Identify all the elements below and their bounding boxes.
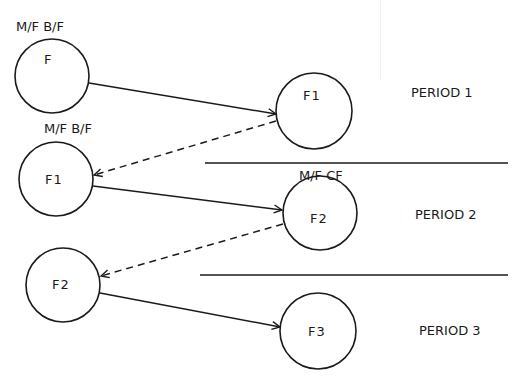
node-circle <box>276 73 352 149</box>
scan-bleed-through <box>380 0 381 80</box>
node-F1-period2: M/F B/F F1 <box>19 121 93 216</box>
node-label: F2 <box>52 277 70 292</box>
period-label-3: PERIOD 3 <box>419 323 481 338</box>
node-label: F1 <box>45 172 63 187</box>
edge-F2-to-F3 <box>100 293 280 327</box>
forecast-period-diagram: M/F B/F F F1 M/F B/F F1 M/F CF F2 F2 F3 … <box>0 0 524 389</box>
edge-F1-to-F2 <box>93 186 282 210</box>
node-label: F3 <box>308 324 326 339</box>
node-annotation: M/F B/F <box>16 19 64 34</box>
node-annotation: M/F B/F <box>44 121 92 136</box>
node-F: M/F B/F F <box>15 19 89 113</box>
edge-F1-to-F1-dashed <box>94 121 276 175</box>
node-F2-period2: M/F CF F2 <box>283 168 357 250</box>
node-label: F2 <box>310 211 328 226</box>
node-label: F1 <box>303 88 321 103</box>
node-F1-period1: F1 <box>276 73 352 149</box>
node-label: F <box>44 52 52 67</box>
edge-F-to-F1 <box>89 83 276 114</box>
node-circle <box>15 39 89 113</box>
node-F3-period3: F3 <box>280 293 356 369</box>
edge-F2-to-F2-dashed <box>101 224 283 276</box>
period-label-2: PERIOD 2 <box>415 207 477 222</box>
node-F2-period3: F2 <box>26 248 100 322</box>
period-label-1: PERIOD 1 <box>411 85 473 100</box>
